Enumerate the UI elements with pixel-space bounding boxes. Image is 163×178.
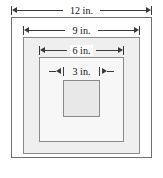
arrow-left-icon	[24, 27, 29, 33]
dimension-label-6in: 6 in.	[70, 45, 94, 56]
dimension-tick-right-icon	[151, 6, 152, 15]
dimension-tick-right-icon	[123, 46, 124, 55]
dimension-9in: 9 in.	[23, 24, 140, 37]
dimension-line-left	[29, 30, 65, 31]
dimension-tick-right-icon	[139, 26, 140, 35]
arrow-left-icon	[56, 68, 61, 74]
dimension-line-right	[98, 30, 134, 31]
arrow-right-icon	[134, 27, 139, 33]
dimension-label-3in: 3 in.	[72, 66, 92, 77]
arrow-right-icon	[146, 7, 151, 13]
arrow-right-icon	[102, 68, 107, 74]
arrow-left-icon	[12, 7, 17, 13]
dimension-3in: 3 in.	[63, 65, 100, 78]
dimension-line-left	[49, 71, 56, 72]
dimension-line-right	[107, 71, 114, 72]
dimension-12in: 12 in.	[11, 4, 152, 17]
dimension-label-9in: 9 in.	[70, 25, 94, 36]
dimension-tick-left-icon	[63, 67, 64, 76]
dimension-tick-right-icon	[99, 67, 100, 76]
dimension-line-left	[17, 10, 63, 11]
arrow-right-icon	[118, 47, 123, 53]
nested-squares-figure: 12 in. 9 in. 6 in. 3 in.	[0, 0, 163, 178]
dimension-line-right	[100, 10, 146, 11]
dimension-label-12in: 12 in.	[67, 5, 96, 16]
dimension-line-right	[96, 50, 118, 51]
inner-square-3in	[63, 80, 100, 117]
dimension-6in: 6 in.	[39, 44, 124, 57]
arrow-left-icon	[40, 47, 45, 53]
dimension-line-left	[45, 50, 67, 51]
